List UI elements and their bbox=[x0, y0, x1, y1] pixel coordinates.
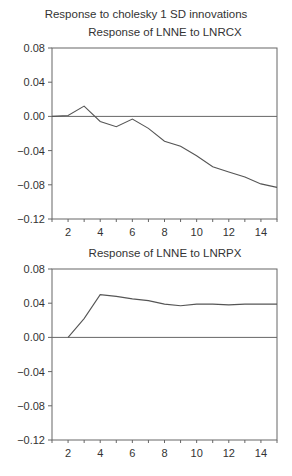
y-tick-label: 0.00 bbox=[24, 331, 45, 343]
y-tick-label: −0.04 bbox=[17, 366, 45, 378]
y-tick-label: −0.08 bbox=[17, 400, 45, 412]
x-tick-label: 6 bbox=[129, 447, 135, 459]
x-tick-label: 8 bbox=[161, 447, 167, 459]
x-tick-label: 14 bbox=[255, 447, 267, 459]
y-tick-label: −0.12 bbox=[17, 434, 45, 446]
x-tick-label: 12 bbox=[223, 447, 235, 459]
y-tick-label: 0.04 bbox=[24, 297, 45, 309]
plot-frame bbox=[52, 269, 277, 440]
y-tick-label: 0.08 bbox=[24, 263, 45, 275]
x-tick-label: 10 bbox=[191, 447, 203, 459]
chart-lnrpx: Response of LNNE to LNRPX 0.080.040.00−0… bbox=[0, 0, 292, 476]
response-line bbox=[68, 295, 277, 338]
x-tick-label: 2 bbox=[65, 447, 71, 459]
plot-lnrpx: 0.080.040.00−0.04−0.08−0.122468101214 bbox=[0, 0, 292, 476]
x-tick-label: 4 bbox=[97, 447, 103, 459]
